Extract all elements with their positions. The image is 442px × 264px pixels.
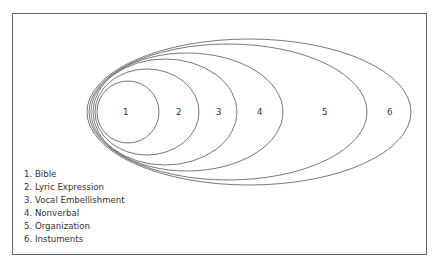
ellipse-label-6: 6 [387,107,392,117]
legend-item-6: 6. Instuments [24,233,125,246]
ellipse-2 [95,69,199,155]
ellipse-label-2: 2 [176,107,181,117]
legend: 1. Bible 2. Lyric Expression 3. Vocal Em… [24,168,125,246]
ellipse-label-3: 3 [216,107,221,117]
legend-item-3: 3. Vocal Embellishment [24,194,125,207]
legend-item-1: 1. Bible [24,168,125,181]
legend-item-4: 4. Nonverbal [24,207,125,220]
ellipse-label-5: 5 [322,107,327,117]
ellipse-label-4: 4 [257,107,262,117]
ellipse-label-1: 1 [123,107,128,117]
legend-item-5: 5. Organization [24,220,125,233]
legend-item-2: 2. Lyric Expression [24,181,125,194]
